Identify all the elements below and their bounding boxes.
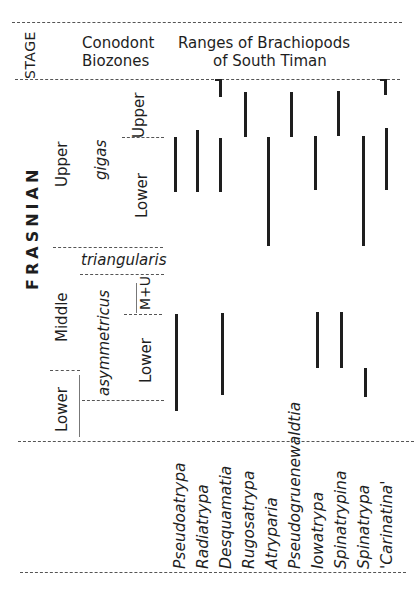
- subzone-gigas-upper: Upper: [130, 93, 148, 138]
- range-pseudoatrypa: [174, 137, 177, 192]
- subzone-divider-asymmetricus: [124, 314, 162, 315]
- zone-triangularis: triangularis: [81, 251, 166, 269]
- range-spinatrypa: [362, 136, 365, 246]
- range-rugosatrypa: [244, 92, 247, 137]
- substage-upper: Upper: [53, 142, 71, 187]
- stage-name-frasnian: FRASNIAN: [23, 166, 42, 290]
- stage-header-label: STAGE: [22, 31, 38, 79]
- taxon-label-rugosatrypa: Rugosatrypa: [240, 471, 258, 569]
- range-radiatrypa: [196, 130, 199, 192]
- range-spinatrypina-upper: [337, 91, 340, 136]
- range-pseudogruenewaldtia: [290, 92, 293, 137]
- range-atryparia: [267, 137, 270, 246]
- substage-divider-middle-lower: [50, 370, 80, 371]
- taxon-label-spinatrypina: Spinatrypina: [332, 471, 350, 569]
- conodont-header-line1: Conodont: [82, 34, 154, 52]
- range-desquamatia-upper: [219, 79, 222, 97]
- zone-asymmetricus: asymmetricus: [95, 290, 113, 396]
- range-carinatina-upper: [384, 79, 387, 95]
- header-bottom-rule: [15, 79, 400, 80]
- range-spinatrypa-lower: [364, 368, 367, 397]
- taxon-label-atryparia: Atryparia: [263, 497, 281, 569]
- ranges-title-line2: of South Timan: [213, 52, 327, 70]
- conodont-header-line2: Biozones: [82, 52, 149, 70]
- range-iowatrypa-lower: [316, 312, 319, 368]
- zone-divider-triangularis-asymmetricus: [80, 274, 164, 275]
- range-spinatrypina-lower: [340, 312, 343, 368]
- range-desquamatia-mid: [219, 138, 222, 192]
- substage-lower: Lower: [53, 387, 71, 432]
- taxon-label-pseudogruenewaldtia: Pseudogruenewaldtia: [286, 402, 304, 569]
- subzone-asymmetricus-bracket: [136, 283, 137, 313]
- substage-column-divider: [79, 375, 80, 437]
- subzone-divider-gigas: [122, 137, 164, 138]
- subzone-gigas-lower: Lower: [133, 173, 151, 218]
- zone-bottom-asymmetricus: [82, 400, 164, 401]
- base-rule: [18, 441, 414, 442]
- subzone-asymmetricus-lower: Lower: [137, 338, 155, 383]
- substage-middle: Middle: [53, 292, 71, 342]
- range-iowatrypa-upper: [314, 136, 317, 190]
- ranges-title-line1: Ranges of Brachiopods: [178, 34, 350, 52]
- range-pseudoatrypa-lower: [175, 314, 178, 411]
- taxon-label-radiatrypa: Radiatrypa: [194, 484, 212, 569]
- taxon-label-desquamatia: Desquamatia: [217, 466, 235, 569]
- taxon-label-pseudoatrypa: Pseudoatrypa: [171, 462, 189, 569]
- range-chart-diagram: STAGE Conodont Biozones Ranges of Brachi…: [0, 0, 416, 591]
- top-rule: [12, 22, 402, 23]
- taxon-label-carinatina: 'Carinatina': [378, 480, 396, 569]
- range-carinatina-lower: [385, 128, 388, 190]
- taxon-label-iowatrypa: Iowatrypa: [309, 492, 327, 569]
- taxa-bottom-rule: [20, 572, 406, 573]
- taxon-label-spinatrypa: Spinatrypa: [355, 485, 373, 569]
- zone-divider-gigas-triangularis: [53, 247, 163, 248]
- range-desquamatia-lower: [221, 313, 224, 395]
- subzone-asymmetricus-mu: M+U: [137, 276, 153, 310]
- zone-gigas: gigas: [92, 140, 110, 180]
